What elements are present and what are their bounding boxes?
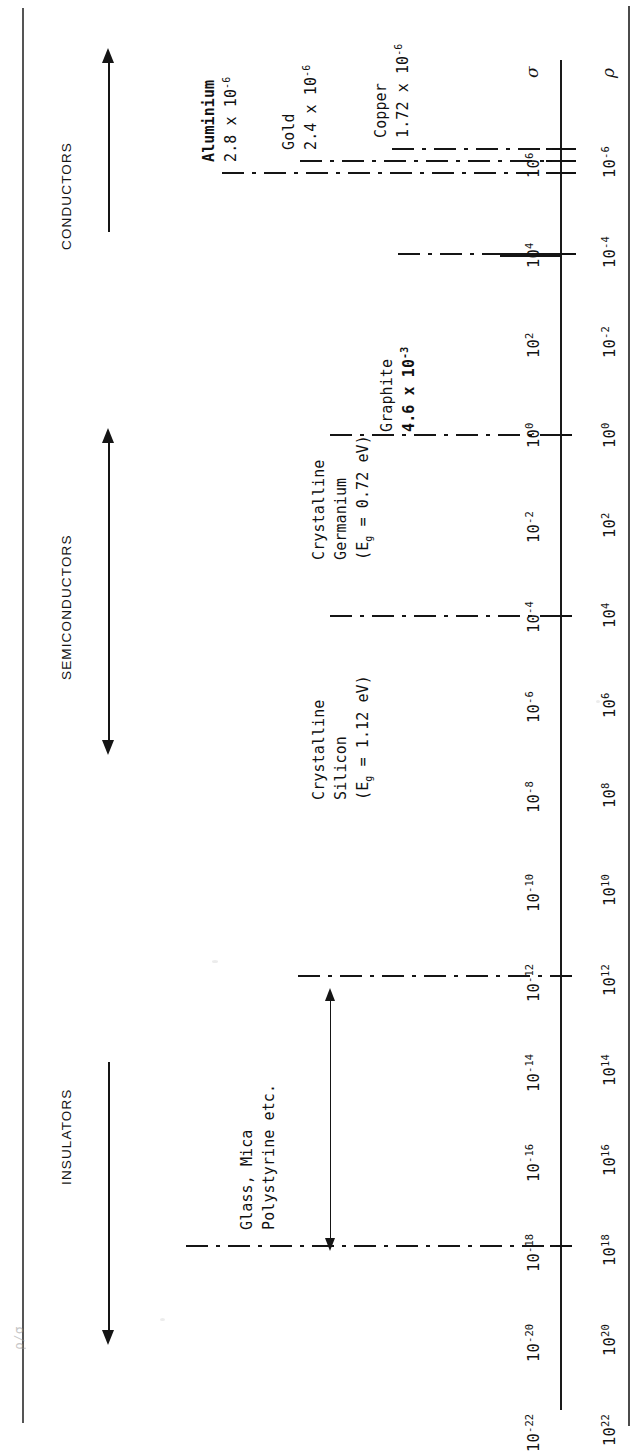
silicon-line1: Crystalline <box>308 675 330 800</box>
page-border-left <box>22 8 24 1423</box>
sigma-tick-label-7: 10-6 <box>524 691 543 723</box>
rho-tick-label-13: 1018 <box>600 1234 619 1266</box>
gold-name: Gold <box>278 65 300 150</box>
graphite-name: Graphite <box>376 347 398 432</box>
insulator-band-arrow-head-down <box>325 1238 335 1251</box>
annotation-aluminium: Aluminium 2.8 x 10-6 <box>198 77 242 162</box>
annotation-graphite: Graphite 4.6 x 10-3 <box>376 347 420 432</box>
copper-name: Copper <box>370 44 392 138</box>
rho-tick-label-5: 102 <box>600 513 619 538</box>
sigma-tick-label-3: 102 <box>524 333 543 358</box>
annotation-insulators: Glass, Mica Polystyrine etc. <box>236 1084 280 1230</box>
rho-tick-label-2: 10-4 <box>600 236 619 268</box>
rho-tick-label-9: 1010 <box>600 874 619 906</box>
rho-tick-label-1: 10-6 <box>600 146 619 178</box>
annotation-germanium: Crystalline Germanium (Eg = 0.72 eV) <box>308 435 377 560</box>
clipped-margin-text: ρ/σ <box>12 1327 25 1350</box>
sigma-symbol: σ <box>524 66 541 78</box>
sigma-tick-label-13: 10-18 <box>524 1234 543 1272</box>
leader-copper <box>392 148 560 150</box>
silicon-line2: Silicon <box>330 675 352 800</box>
paper-speck <box>212 960 218 963</box>
sigma-tick-label-8: 10-8 <box>524 781 543 813</box>
category-label-insulators: INSULATORS <box>60 1088 74 1185</box>
semiconductors-arrow-shaft <box>108 442 110 742</box>
rho-tick-label-11: 1014 <box>600 1054 619 1086</box>
sigma-tick-label-15: 10-22 <box>524 1414 543 1452</box>
rho-symbol: ρ <box>600 68 617 78</box>
category-label-conductors: CONDUCTORS <box>60 142 74 250</box>
insulator-line1: Glass, Mica <box>236 1084 258 1230</box>
leader-aluminium <box>222 172 560 174</box>
insulators-arrow-head <box>102 1330 114 1345</box>
semiconductors-arrow-head-up <box>102 428 114 443</box>
gold-value: 2.4 x 10-6 <box>300 65 322 150</box>
scale-axis-line <box>560 60 562 1410</box>
rho-tick-label-14: 1020 <box>600 1324 619 1356</box>
annotation-silicon: Crystalline Silicon (Eg = 1.12 eV) <box>308 675 377 800</box>
insulators-arrow-shaft <box>108 1062 110 1332</box>
sigma-tick-label-9: 10-10 <box>524 874 543 912</box>
aluminium-name: Aluminium <box>198 77 220 162</box>
rho-tick-label-3: 10-2 <box>600 326 619 358</box>
sigma-tick-label-11: 10-14 <box>524 1054 543 1092</box>
annotation-gold: Gold 2.4 x 10-6 <box>278 65 322 150</box>
annotation-copper: Copper 1.72 x 10-6 <box>370 44 414 138</box>
page-border-right <box>628 6 630 1426</box>
conductors-arrow-shaft <box>108 62 110 232</box>
conductors-arrow-head <box>102 48 114 63</box>
germanium-bandgap: (Eg = 0.72 eV) <box>352 435 377 560</box>
rho-tick-label-12: 1016 <box>600 1144 619 1176</box>
rho-tick-label-8: 108 <box>600 783 619 808</box>
sigma-tick-label-14: 10-20 <box>524 1324 543 1362</box>
rho-tick-label-7: 106 <box>600 693 619 718</box>
sigma-tick-label-1: 106 <box>524 153 543 178</box>
paper-speck <box>160 1318 165 1321</box>
leader-graphite-dash <box>398 253 502 255</box>
sigma-tick-label-12: 10-16 <box>524 1144 543 1182</box>
insulator-band-arrow-head-up <box>325 988 335 1001</box>
rho-tick-label-10: 1012 <box>600 964 619 996</box>
sigma-tick-label-5: 10-2 <box>524 511 543 543</box>
rho-tick-label-6: 104 <box>600 603 619 628</box>
sigma-tick-label-10: 10-12 <box>524 964 543 1002</box>
leader-insulator-upper <box>298 975 562 977</box>
copper-value: 1.72 x 10-6 <box>392 44 414 138</box>
semiconductors-arrow-head-down <box>102 740 114 755</box>
aluminium-value: 2.8 x 10-6 <box>220 77 242 162</box>
insulator-line2: Polystyrine etc. <box>258 1084 280 1230</box>
leader-gold <box>300 160 560 162</box>
rho-tick-label-15: 1022 <box>600 1414 619 1446</box>
germanium-line2: Germanium <box>330 435 352 560</box>
germanium-line1: Crystalline <box>308 435 330 560</box>
leader-insulator-lower <box>186 1245 562 1247</box>
leader-silicon <box>330 615 562 617</box>
category-label-semiconductors: SEMICONDUCTORS <box>60 534 74 680</box>
silicon-bandgap: (Eg = 1.12 eV) <box>352 675 377 800</box>
insulator-band-arrow-shaft <box>330 1000 331 1240</box>
rho-tick-label-4: 100 <box>600 423 619 448</box>
graphite-value: 4.6 x 10-3 <box>398 347 420 432</box>
leader-graphite-solid <box>500 253 560 257</box>
